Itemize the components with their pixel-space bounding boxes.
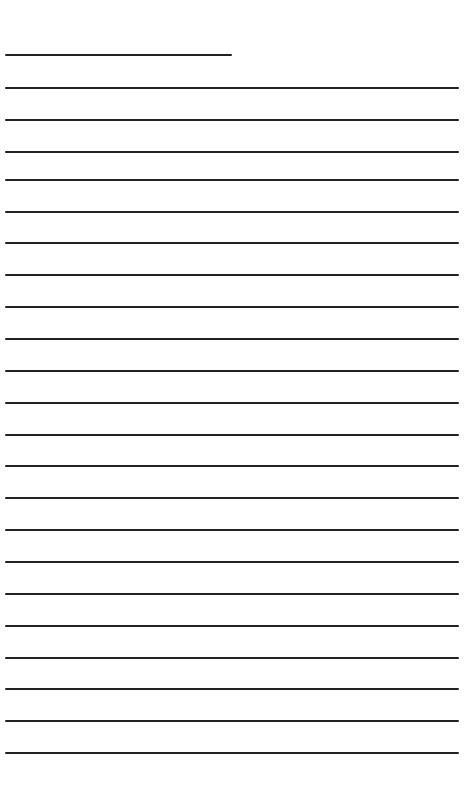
ruled-line xyxy=(5,338,459,340)
ruled-line xyxy=(5,242,459,244)
ruled-line xyxy=(5,752,459,754)
ruled-line xyxy=(5,179,459,181)
ruled-line xyxy=(5,119,459,121)
lined-paper-page xyxy=(0,0,472,806)
ruled-line xyxy=(5,688,459,690)
ruled-line xyxy=(5,151,459,153)
name-line xyxy=(5,54,232,56)
ruled-line xyxy=(5,274,459,276)
ruled-line xyxy=(5,370,459,372)
ruled-line xyxy=(5,593,459,595)
ruled-line xyxy=(5,434,459,436)
ruled-line xyxy=(5,561,459,563)
ruled-line xyxy=(5,720,459,722)
ruled-line xyxy=(5,657,459,659)
ruled-line xyxy=(5,211,459,213)
ruled-line xyxy=(5,306,459,308)
ruled-line xyxy=(5,625,459,627)
ruled-line xyxy=(5,497,459,499)
ruled-line xyxy=(5,465,459,467)
ruled-line xyxy=(5,87,459,89)
ruled-line xyxy=(5,402,459,404)
ruled-line xyxy=(5,529,459,531)
